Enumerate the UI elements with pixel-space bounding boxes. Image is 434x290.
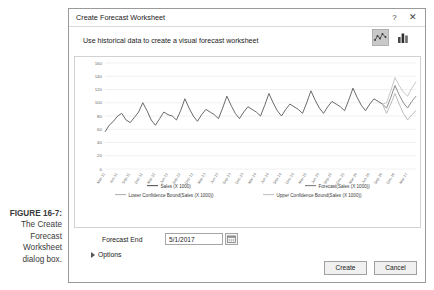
options-disclosure[interactable]: Options xyxy=(91,251,121,258)
forecast-chart: 020406080100120140160 Mar-11Jun-11Sep-11… xyxy=(75,57,420,227)
svg-text:Mar-14: Mar-14 xyxy=(247,172,257,184)
figure-caption-text: The Create Forecast Worksheet dialog box… xyxy=(0,219,62,265)
figure-caption: FIGURE 16-7: The Create Forecast Workshe… xyxy=(0,208,62,265)
svg-text:Dec-16: Dec-16 xyxy=(386,172,396,185)
chevron-right-icon xyxy=(91,252,95,258)
svg-text:Mar-17: Mar-17 xyxy=(399,172,409,184)
svg-text:60: 60 xyxy=(97,127,102,132)
svg-text:Forecast(Sales (X 1000)): Forecast(Sales (X 1000)) xyxy=(319,184,371,189)
chart-type-toggle-group xyxy=(372,29,411,46)
dialog-title-bar: Create Forecast Worksheet ? ✕ xyxy=(69,9,425,27)
chart-series-lines xyxy=(105,78,416,132)
help-icon[interactable]: ? xyxy=(388,11,401,24)
line-chart-icon[interactable] xyxy=(372,29,389,46)
dialog-subheader: Use historical data to create a visual f… xyxy=(69,27,425,55)
options-label: Options xyxy=(98,251,121,258)
svg-text:Jun-16: Jun-16 xyxy=(361,172,371,184)
svg-text:Sep-13: Sep-13 xyxy=(222,172,232,185)
chart-legend: Sales (X 1000)Forecast(Sales (X 1000))Lo… xyxy=(115,184,370,198)
svg-text:Mar-12: Mar-12 xyxy=(147,172,157,184)
dialog-footer-buttons: Create Cancel xyxy=(324,261,417,275)
close-icon[interactable]: ✕ xyxy=(406,11,419,24)
line-chart-glyph xyxy=(374,31,387,44)
svg-text:Jun-13: Jun-13 xyxy=(210,172,220,184)
svg-text:140: 140 xyxy=(95,74,103,79)
svg-text:Jun-12: Jun-12 xyxy=(159,172,169,184)
svg-text:Sep-14: Sep-14 xyxy=(272,172,282,185)
create-button[interactable]: Create xyxy=(324,261,367,275)
forecast-chart-panel: 020406080100120140160 Mar-11Jun-11Sep-11… xyxy=(74,56,421,228)
svg-text:Dec-13: Dec-13 xyxy=(235,172,245,185)
svg-text:100: 100 xyxy=(95,100,103,105)
svg-text:Jun-15: Jun-15 xyxy=(311,172,321,184)
svg-text:Jun-14: Jun-14 xyxy=(260,172,270,184)
forecast-end-label: Forecast End xyxy=(102,236,142,243)
svg-text:20: 20 xyxy=(97,153,102,158)
svg-text:Jun-11: Jun-11 xyxy=(109,172,118,184)
chart-y-axis-labels: 020406080100120140160 xyxy=(95,61,103,172)
create-forecast-worksheet-dialog: Create Forecast Worksheet ? ✕ Use histor… xyxy=(68,8,426,283)
svg-text:Dec-14: Dec-14 xyxy=(285,172,295,185)
figure-label: FIGURE 16-7: xyxy=(0,208,62,219)
svg-text:Sales (X 1000): Sales (X 1000) xyxy=(161,184,192,189)
cancel-button[interactable]: Cancel xyxy=(374,261,417,275)
svg-text:80: 80 xyxy=(97,114,102,119)
svg-text:120: 120 xyxy=(95,87,103,92)
svg-text:Lower Confidence Bound(Sales (: Lower Confidence Bound(Sales (X 1000)) xyxy=(129,193,215,198)
forecast-end-row: Forecast End xyxy=(69,235,425,249)
svg-text:40: 40 xyxy=(97,140,102,145)
svg-text:160: 160 xyxy=(95,61,103,66)
svg-text:Dec-11: Dec-11 xyxy=(134,172,144,184)
calendar-glyph xyxy=(227,235,236,243)
svg-text:Mar-15: Mar-15 xyxy=(298,172,308,184)
column-chart-glyph xyxy=(397,31,409,44)
forecast-end-input[interactable] xyxy=(165,233,223,245)
calendar-icon[interactable] xyxy=(225,233,238,245)
svg-text:Sep-11: Sep-11 xyxy=(121,172,131,184)
svg-text:0: 0 xyxy=(100,167,103,172)
subheader-text: Use historical data to create a visual f… xyxy=(83,37,258,45)
column-chart-icon[interactable] xyxy=(394,29,411,46)
dialog-title: Create Forecast Worksheet xyxy=(76,13,165,22)
svg-text:Sep-16: Sep-16 xyxy=(373,172,383,185)
svg-text:Mar-13: Mar-13 xyxy=(197,172,207,184)
svg-text:Mar-11: Mar-11 xyxy=(96,172,106,184)
svg-text:Upper Confidence Bound(Sales (: Upper Confidence Bound(Sales (X 1000)) xyxy=(277,193,363,198)
